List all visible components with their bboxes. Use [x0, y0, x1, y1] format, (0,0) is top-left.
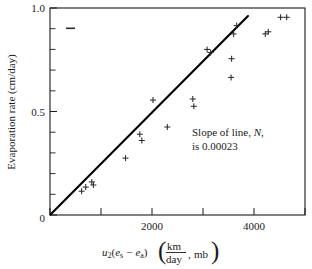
plot-frame — [50, 8, 305, 215]
y-axis-title: Evaporation rate (cm/day) — [5, 54, 18, 170]
x-axis-title-unit: mb — [194, 248, 209, 260]
x-axis-title-unit-denominator: day — [166, 253, 182, 265]
scatter-point — [79, 188, 85, 194]
x-axis-title: u2(es−ea) ( km day , mb ) — [102, 237, 219, 265]
y-tick-label-1.0: 1.0 — [31, 2, 45, 14]
slope-annotation-suffix: , — [261, 126, 264, 138]
slope-annotation-line2: is 0.00023 — [192, 140, 238, 152]
scatter-point — [190, 96, 196, 102]
x-axis-ticks — [50, 208, 305, 215]
x-axis-title-unit-numerator: km — [167, 240, 182, 252]
y-tick-label-0.5: 0.5 — [31, 106, 45, 118]
scatter-point — [229, 56, 235, 62]
slope-annotation-prefix: Slope of line, — [192, 126, 254, 138]
scatter-point — [284, 14, 290, 20]
scatter-point — [164, 124, 170, 130]
scatter-point — [228, 74, 234, 80]
scatter-point — [139, 138, 145, 144]
slope-annotation-line1: Slope of line, N, — [192, 126, 264, 138]
plot-svg: 1.0 0.5 0 2000 4000 — [0, 0, 312, 269]
fit-line — [51, 16, 249, 215]
scatter-point — [150, 97, 156, 103]
scatter-markers — [79, 14, 290, 194]
x-axis-title-close-bracket: ) — [211, 237, 219, 265]
x-axis-title-unit-separator: , — [188, 248, 191, 260]
scatter-point — [234, 23, 240, 29]
evaporation-rate-scatter-figure: 1.0 0.5 0 2000 4000 — [0, 0, 312, 269]
x-tick-label-4000: 4000 — [243, 220, 266, 232]
scatter-point — [123, 155, 129, 161]
y-axis-ticks — [50, 8, 57, 215]
scatter-point — [278, 14, 284, 20]
x-tick-label-2000: 2000 — [141, 220, 164, 232]
scatter-point — [191, 103, 197, 109]
scatter-point — [83, 184, 89, 190]
scatter-point — [137, 131, 143, 137]
y-tick-label-0: 0 — [40, 212, 46, 224]
x-axis-title-u: u2(es−ea) — [102, 246, 148, 260]
scatter-point — [204, 46, 210, 52]
